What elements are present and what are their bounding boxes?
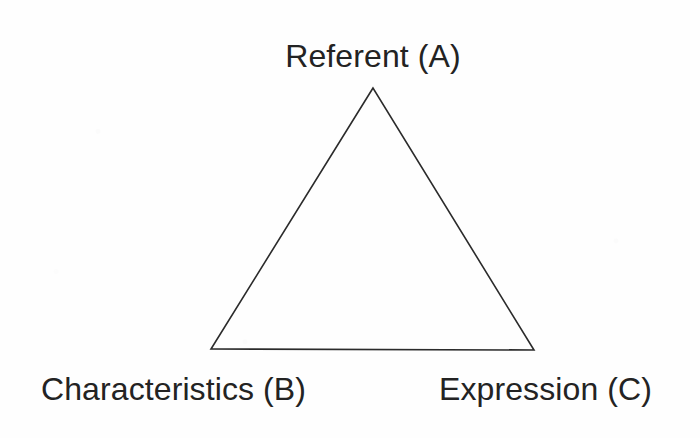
triangle-outline <box>211 88 534 350</box>
vertex-label-characteristics: Characteristics (B) <box>41 373 306 405</box>
figure-root: Referent (A) Characteristics (B) Express… <box>0 0 700 438</box>
vertex-label-referent: Referent (A) <box>23 40 700 72</box>
vertex-label-expression: Expression (C) <box>439 373 652 405</box>
